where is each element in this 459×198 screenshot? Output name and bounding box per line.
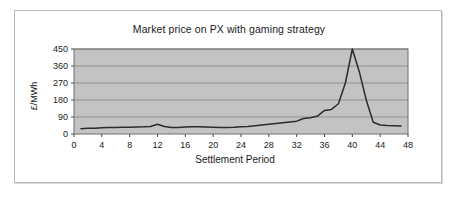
- x-tick-label: 20: [203, 141, 223, 150]
- x-tick-label: 16: [175, 141, 195, 150]
- x-tick-label: 48: [398, 141, 418, 150]
- x-tick-label: 28: [259, 141, 279, 150]
- x-tick-label: 12: [148, 141, 168, 150]
- x-tick-label: 24: [231, 141, 251, 150]
- x-tick-label: 8: [120, 141, 140, 150]
- y-tick-label: 90: [40, 113, 68, 122]
- x-tick-label: 40: [342, 141, 362, 150]
- x-tick-label: 36: [315, 141, 335, 150]
- x-tick-label: 44: [370, 141, 390, 150]
- y-tick-label: 0: [40, 130, 68, 139]
- y-tick-label: 270: [40, 79, 68, 88]
- chart-figure-frame: Market price on PX with gaming strategy …: [14, 10, 442, 183]
- chart-plot-svg: [15, 11, 443, 184]
- x-tick-label: 0: [64, 141, 84, 150]
- y-tick-label: 180: [40, 96, 68, 105]
- x-tick-label: 4: [92, 141, 112, 150]
- x-tick-label: 32: [287, 141, 307, 150]
- y-tick-label: 450: [40, 45, 68, 54]
- y-tick-label: 360: [40, 62, 68, 71]
- plot-area-wrapper: £/MWh Settlement Period 090180270360450 …: [15, 11, 443, 184]
